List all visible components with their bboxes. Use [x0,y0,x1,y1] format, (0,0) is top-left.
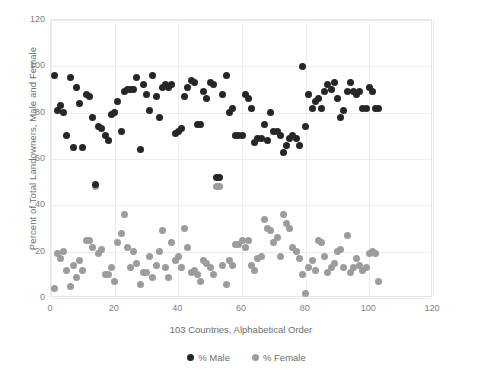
data-point-male [105,137,112,144]
data-point-female [162,264,169,271]
legend-item[interactable]: % Male [187,352,230,363]
data-point-female [181,225,188,232]
data-point-male [267,109,274,116]
data-point-female [318,239,325,246]
data-point-female [70,262,77,269]
data-point-male [98,125,105,132]
data-point-female [63,267,70,274]
data-point-female [372,250,379,257]
data-point-male [70,144,77,151]
data-point-female [121,211,128,218]
data-point-female [118,230,125,237]
data-point-male [302,123,309,130]
data-point-female [274,234,281,241]
data-point-male [181,93,188,100]
data-point-female [159,227,166,234]
data-point-male [133,74,140,81]
data-point-female [184,244,191,251]
data-point-female [261,216,268,223]
legend-label: % Female [263,352,306,363]
data-point-male [229,105,236,112]
legend-marker-icon [252,354,259,361]
data-point-male [57,102,64,109]
data-point-male [168,81,175,88]
data-point-male [92,181,99,188]
data-point-male [118,128,125,135]
data-point-female [277,253,284,260]
data-point-male [363,105,370,112]
data-point-male [369,88,376,95]
scatter-chart: Percent of Total Landowners, Male and Fe… [0,0,493,375]
data-point-male [347,79,354,86]
data-point-male [149,72,156,79]
x-axis-tick-label: 100 [348,303,388,313]
gridline-vertical [433,20,434,296]
data-point-male [73,84,80,91]
gridline-vertical [115,20,116,296]
data-point-female [105,271,112,278]
data-point-male [223,72,230,79]
data-point-female [293,248,300,255]
data-point-female [245,237,252,244]
data-point-female [286,225,293,232]
legend-item[interactable]: % Female [252,352,306,363]
data-point-female [353,255,360,262]
data-point-male [216,174,223,181]
data-point-female [302,290,309,297]
data-point-male [111,109,118,116]
data-point-female [89,244,96,251]
data-point-female [149,274,156,281]
data-point-female [223,281,230,288]
legend-marker-icon [187,354,194,361]
data-point-male [305,91,312,98]
data-point-male [146,107,153,114]
data-point-male [356,88,363,95]
y-axis-tick-label: 60 [3,153,45,163]
data-point-female [331,260,338,267]
data-point-male [219,91,226,98]
y-axis-tick-label: 120 [3,14,45,24]
gridline-vertical [51,20,52,296]
data-point-female [296,255,303,262]
data-point-male [331,79,338,86]
data-point-female [73,274,80,281]
legend-label: % Male [198,352,230,363]
data-point-male [184,84,191,91]
data-point-female [114,239,121,246]
y-axis-tick-label: 0 [3,292,45,302]
data-point-male [283,142,290,149]
x-axis-tick-label: 0 [30,303,70,313]
data-point-male [248,105,255,112]
x-axis-tick-label: 80 [285,303,325,313]
data-point-male [86,93,93,100]
y-axis-tick-label: 20 [3,246,45,256]
data-point-male [261,121,268,128]
data-point-female [137,281,144,288]
gridline-vertical [242,20,243,296]
data-point-female [67,283,74,290]
y-axis-tick-labels: 020406080100120 [0,19,45,297]
data-point-female [79,267,86,274]
gridline-horizontal [51,66,431,67]
plot-area [50,19,432,297]
data-point-male [299,63,306,70]
data-point-male [153,93,160,100]
data-point-female [258,253,265,260]
gridline-horizontal [51,298,431,299]
data-point-female [219,262,226,269]
data-point-female [344,232,351,239]
data-point-male [337,114,344,121]
data-point-female [337,246,344,253]
y-axis-tick-label: 40 [3,199,45,209]
data-point-male [318,105,325,112]
data-point-male [296,142,303,149]
data-point-male [245,95,252,102]
data-point-male [328,86,335,93]
data-point-male [143,91,150,98]
data-point-female [242,244,249,251]
data-point-female [207,264,214,271]
data-point-male [140,81,147,88]
data-point-female [312,267,319,274]
data-point-male [197,121,204,128]
data-point-male [178,125,185,132]
